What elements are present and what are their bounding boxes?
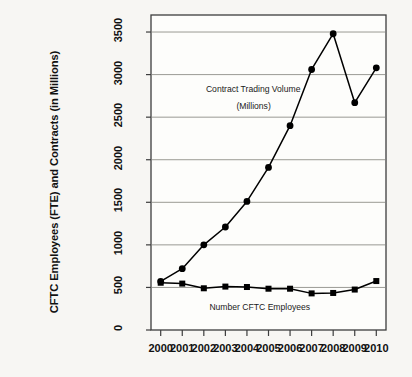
chart-annotation: Contract Trading Volume: [206, 84, 301, 94]
line-chart-plot: [0, 0, 412, 377]
data-point-marker: [373, 64, 380, 71]
y-axis-tick-label: 2000: [112, 135, 124, 181]
y-axis-tick-label: 2500: [112, 92, 124, 138]
data-point-marker: [308, 66, 315, 73]
data-point-marker: [265, 164, 272, 171]
data-point-marker: [373, 278, 379, 284]
data-point-marker: [179, 281, 185, 287]
data-point-marker: [244, 284, 250, 290]
data-point-marker: [352, 287, 358, 293]
y-axis-tick-label: 1000: [112, 220, 124, 266]
data-point-marker: [179, 265, 186, 272]
x-axis-tick-label: 2010: [354, 342, 398, 354]
chart-annotation: (Millions): [236, 101, 270, 111]
data-point-marker: [201, 285, 207, 291]
y-axis-tick-label: 3500: [112, 7, 124, 53]
data-point-marker: [222, 284, 228, 290]
data-point-marker: [266, 286, 272, 292]
y-axis-tick-label: 3000: [112, 50, 124, 96]
data-point-marker: [200, 241, 207, 248]
data-point-marker: [222, 224, 229, 231]
data-point-marker: [287, 286, 293, 292]
data-point-marker: [158, 280, 164, 286]
data-point-marker: [330, 290, 336, 296]
data-point-marker: [287, 122, 294, 129]
y-axis-tick-label: 1500: [112, 177, 124, 223]
y-axis-tick-label: 0: [112, 305, 124, 351]
data-point-marker: [351, 99, 358, 106]
y-axis-tick-label: 500: [112, 262, 124, 308]
data-point-marker: [244, 198, 251, 205]
data-point-marker: [330, 30, 337, 37]
chart-annotation: Number CFTC Employees: [209, 302, 310, 312]
data-point-marker: [309, 290, 315, 296]
chart-container: CFTC Employees (FTE) and Contracts (in M…: [0, 0, 412, 377]
